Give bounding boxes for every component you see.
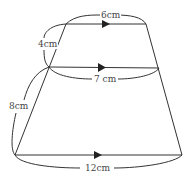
middle-arrow-icon <box>98 63 106 72</box>
bottom-arrow-icon <box>94 151 102 159</box>
top-arrow-icon <box>102 20 110 28</box>
upper-left-side-label: 4cm <box>37 39 58 49</box>
upper-left-brace-top <box>44 24 66 38</box>
trapezoid-diagram: 6cm 7 cm 12cm 4cm 8cm <box>0 0 194 181</box>
upper-left-brace-bottom <box>44 50 49 67</box>
middle-brace-right <box>118 68 159 79</box>
bottom-brace-left <box>15 155 80 168</box>
top-brace-left <box>66 15 100 24</box>
lower-left-brace-bottom <box>12 113 16 155</box>
middle-brace-left <box>49 67 92 79</box>
lower-left-brace-top <box>24 67 49 100</box>
bottom-brace-right <box>114 155 182 168</box>
middle-length-label: 7 cm <box>93 74 117 84</box>
right-side <box>146 24 182 155</box>
bottom-length-label: 12cm <box>84 163 111 173</box>
top-length-label: 6cm <box>100 10 121 20</box>
lower-left-side-label: 8cm <box>8 101 29 111</box>
diagram-canvas <box>0 0 194 181</box>
